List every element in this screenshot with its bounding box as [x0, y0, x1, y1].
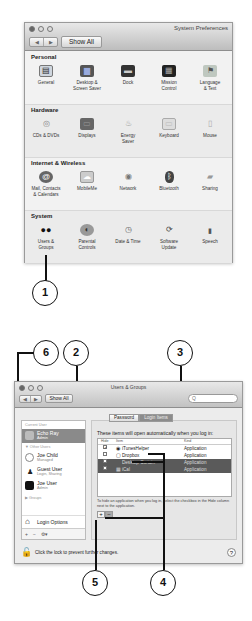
pane-parental-controls[interactable]: ◐ Parental Controls — [67, 224, 107, 250]
search-input[interactable]: Q — [188, 394, 238, 403]
pane-speech[interactable]: ▮ Speech — [190, 224, 230, 245]
language-icon: ⚑ — [203, 65, 217, 77]
lock-bar: 🔓 Click the lock to prevent further chan… — [21, 547, 236, 559]
user-item[interactable]: Joe User Admin — [22, 479, 85, 493]
callout-line — [163, 453, 165, 570]
pane-mouse[interactable]: ▯ Mouse — [190, 118, 230, 139]
section-internet-wireless: Internet & Wireless @ Mail, Contacts & C… — [25, 158, 232, 211]
other-users-header[interactable]: ▼ Other Users — [25, 445, 50, 449]
remove-user-button[interactable]: − — [33, 529, 36, 539]
dock-icon: ▬ — [121, 65, 135, 77]
section-title: Hardware — [31, 107, 58, 113]
pane-network[interactable]: ◉ Network — [108, 171, 148, 192]
callout-3: 3 — [167, 340, 193, 366]
table-row[interactable]: Desktop Curtain Application — [98, 459, 231, 466]
pane-language-text[interactable]: ⚑ Language & Text — [190, 65, 230, 91]
callout-5: 5 — [82, 570, 108, 596]
column-item[interactable]: Item — [116, 439, 123, 444]
pane-dock[interactable]: ▬ Dock — [108, 65, 148, 86]
section-title: Personal — [31, 54, 56, 60]
callout-line — [17, 352, 19, 383]
tab-password[interactable]: Password — [109, 414, 139, 422]
lock-text: Click the lock to prevent further change… — [35, 550, 118, 555]
desktop-icon: ▆ — [80, 65, 94, 77]
parental-icon: ◐ — [80, 224, 94, 236]
callout-line — [95, 520, 97, 570]
login-options-button[interactable]: ⌂ Login Options — [22, 515, 85, 527]
pane-bluetooth[interactable]: ᛒ Bluetooth — [149, 171, 189, 192]
title-bar: Users & Groups ◀ ▶ Show All Q — [15, 382, 242, 408]
callout-6: 6 — [33, 340, 59, 366]
window-controls — [29, 26, 53, 32]
callout-line — [17, 352, 34, 354]
avatar — [25, 431, 34, 440]
general-icon: ▤ — [39, 65, 53, 77]
column-kind[interactable]: Kind — [184, 439, 191, 444]
table-row[interactable]: ▢ Dropbox Application — [98, 452, 231, 459]
close-button[interactable] — [29, 26, 35, 32]
pane-mission-control[interactable]: ▦ Mission Control — [149, 65, 189, 91]
pane-displays[interactable]: ▭ Displays — [67, 118, 107, 139]
column-hide[interactable]: Hide — [101, 439, 108, 444]
display-icon: ▭ — [80, 118, 94, 130]
section-personal: Personal ▤ General ▆ Desktop & Screen Sa… — [25, 52, 232, 105]
users-icon: ●● — [39, 224, 53, 236]
callout-line — [148, 453, 164, 455]
forward-button[interactable]: ▶ — [43, 38, 57, 46]
tab-login-items[interactable]: Login Items — [139, 414, 173, 422]
help-button[interactable]: ? — [227, 548, 236, 557]
section-title: System — [31, 213, 52, 219]
minimize-button[interactable] — [38, 26, 44, 32]
add-user-button[interactable]: + — [25, 529, 28, 539]
current-user-header: Current User — [25, 423, 47, 427]
cd-icon: ◎ — [39, 118, 53, 130]
users-groups-window: Users & Groups ◀ ▶ Show All Q Current Us… — [14, 381, 243, 564]
login-items-table: Hide Item Kind ✓ ◉ iTunesHelper Applicat… — [97, 438, 232, 497]
pane-desktop-screen-saver[interactable]: ▆ Desktop & Screen Saver — [67, 65, 107, 91]
user-item-current[interactable]: Echo Ray Admin — [22, 429, 85, 443]
mission-control-icon: ▦ — [162, 65, 176, 77]
app-icon: ▢ — [116, 452, 121, 459]
pane-energy-saver[interactable]: ♨ Energy Saver — [108, 118, 148, 144]
app-icon: ◉ — [116, 445, 120, 452]
hide-checkbox[interactable] — [103, 466, 107, 470]
back-button[interactable]: ◀ — [30, 38, 43, 46]
back-button[interactable]: ◀ — [20, 396, 30, 402]
system-preferences-window: System Preferences ◀ ▶ Show All Personal… — [24, 22, 233, 263]
pane-sharing[interactable]: ▰ Sharing — [190, 171, 230, 192]
pane-software-update[interactable]: ⟳ Software Update — [149, 224, 189, 250]
pane-mail-contacts-calendars[interactable]: @ Mail, Contacts & Calendars — [26, 171, 66, 197]
pane-cds-dvds[interactable]: ◎ CDs & DVDs — [26, 118, 66, 139]
nav-buttons: ◀ ▶ — [29, 37, 58, 47]
user-item[interactable]: ♟ Guest User Login, Sharing — [22, 465, 85, 479]
hide-checkbox[interactable] — [103, 452, 107, 456]
at-icon: @ — [39, 171, 53, 183]
user-item[interactable]: Joe Child Managed — [22, 451, 85, 465]
show-all-button[interactable]: Show All — [61, 36, 102, 48]
show-all-button[interactable]: Show All — [45, 394, 73, 403]
pane-mobileme[interactable]: ☁ MobileMe — [67, 171, 107, 192]
pane-keyboard[interactable]: ▭ Keyboard — [149, 118, 189, 139]
hide-checkbox[interactable]: ✓ — [103, 445, 107, 449]
table-row[interactable]: ▦ iCal Application — [98, 466, 231, 473]
title-bar: System Preferences ◀ ▶ Show All — [25, 23, 232, 51]
add-item-button[interactable]: + — [97, 511, 105, 518]
app-icon: ▦ — [116, 466, 121, 473]
lock-icon[interactable]: 🔓 — [21, 547, 32, 558]
zoom-button[interactable] — [47, 26, 53, 32]
callout-line — [105, 517, 164, 519]
forward-button[interactable]: ▶ — [30, 396, 41, 402]
sidebar-toolbar: + − ⚙▾ — [22, 528, 85, 539]
microphone-icon: ▮ — [203, 224, 217, 236]
lightbulb-icon: ♨ — [121, 118, 135, 130]
window-title: System Preferences — [174, 25, 228, 31]
gear-icon[interactable]: ⚙▾ — [41, 529, 48, 539]
hide-checkbox[interactable] — [103, 459, 107, 463]
table-row[interactable]: ✓ ◉ iTunesHelper Application — [98, 445, 231, 452]
groups-header[interactable]: ▶ Groups — [25, 495, 42, 500]
nav-buttons: ◀ ▶ — [19, 395, 42, 403]
keyboard-icon: ▭ — [162, 118, 176, 130]
pane-users-groups[interactable]: ●● Users & Groups — [26, 224, 66, 250]
pane-date-time[interactable]: ◷ Date & Time — [108, 224, 148, 245]
pane-general[interactable]: ▤ General — [26, 65, 66, 86]
